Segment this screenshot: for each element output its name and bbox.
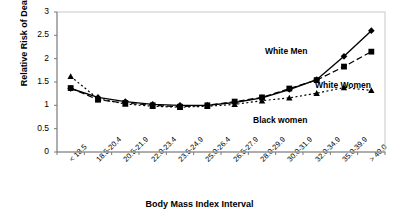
plot-border: [57, 12, 385, 152]
data-point-square: [314, 77, 320, 83]
data-point-square: [368, 49, 374, 55]
series-line-2: [71, 76, 372, 107]
data-point-triangle: [67, 73, 73, 79]
chart-figure: Relative Risk of Death Body Mass Index I…: [0, 0, 399, 221]
series-line-1: [71, 52, 372, 107]
data-point-triangle: [368, 87, 374, 93]
data-point-square: [341, 64, 347, 70]
data-point-square: [68, 85, 74, 91]
series-line-0: [71, 31, 372, 106]
plot-area: [0, 0, 399, 221]
data-point-triangle: [341, 84, 347, 90]
data-point-square: [286, 86, 292, 92]
